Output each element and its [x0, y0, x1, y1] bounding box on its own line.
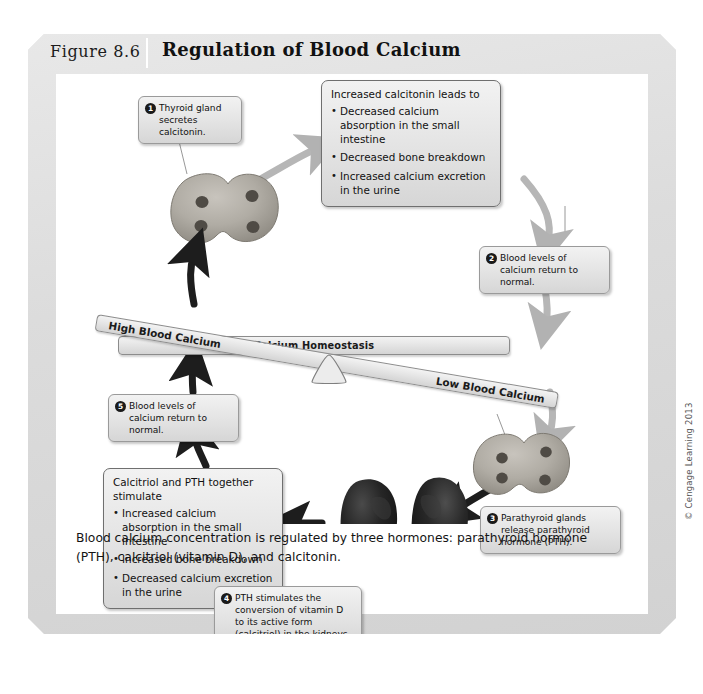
callout-step2[interactable]: 2 Blood levels of calcium return to norm…	[479, 246, 610, 294]
arrow-step5-to-balance	[192, 366, 193, 392]
arrow-calcitonin-effects-to-step2	[524, 179, 549, 242]
step1-text: Thyroid gland secretes calcitonin.	[159, 102, 233, 138]
calcitonin-effect-item: Increased calcium excretion in the urine	[331, 170, 491, 198]
kidneys-icon	[341, 478, 468, 524]
parathyroid-gland-icon	[473, 433, 569, 494]
step2-text: Blood levels of calcium return to normal…	[500, 252, 601, 288]
diagram-canvas: Calcium Homeostasis High Blood Calcium L…	[56, 74, 648, 524]
calcitonin-effect-item: Decreased calcium absorption in the smal…	[331, 105, 491, 147]
callout-step5[interactable]: 5 Blood levels of calcium return to norm…	[108, 394, 239, 442]
figure-title: Regulation of Blood Calcium	[162, 39, 461, 60]
step1-badge: 1	[145, 103, 156, 114]
step4-badge: 4	[221, 593, 232, 604]
copyright-credit: © Cengage Learning 2013	[684, 402, 694, 520]
figure-header: Figure 8.6 Regulation of Blood Calcium	[28, 34, 676, 72]
figure-panel: Calcium Homeostasis High Blood Calcium L…	[56, 74, 648, 614]
step5-text: Blood levels of calcium return to normal…	[129, 400, 230, 436]
fulcrum-triangle	[308, 353, 350, 387]
step5-badge: 5	[115, 401, 126, 412]
calcitonin-effects-heading: Increased calcitonin leads to	[331, 88, 491, 102]
arrow-highcalcium-to-thyroid	[191, 254, 194, 304]
figure-caption: Blood calcium concentration is regulated…	[76, 529, 621, 567]
step3-badge: 3	[487, 513, 498, 524]
calcitriol-pth-heading: Calcitriol and PTH together stimulate	[113, 476, 273, 504]
figure-number: Figure 8.6	[50, 42, 140, 61]
calcitonin-effects-list: Decreased calcium absorption in the smal…	[331, 105, 491, 198]
callout-step1[interactable]: 1 Thyroid gland secretes calcitonin.	[138, 96, 242, 144]
callout-calcitonin-effects[interactable]: Increased calcitonin leads to Decreased …	[321, 80, 501, 207]
thyroid-gland-icon	[171, 174, 278, 243]
calcitonin-effect-item: Decreased bone breakdown	[331, 151, 491, 165]
header-divider	[146, 38, 148, 68]
step4-text: PTH stimulates the conversion of vitamin…	[235, 592, 353, 640]
figure-container: Figure 8.6 Regulation of Blood Calcium	[28, 34, 676, 634]
arrow-step2-to-balance	[545, 289, 547, 324]
step2-badge: 2	[486, 253, 497, 264]
callout-step4[interactable]: 4 PTH stimulates the conversion of vitam…	[214, 586, 362, 646]
